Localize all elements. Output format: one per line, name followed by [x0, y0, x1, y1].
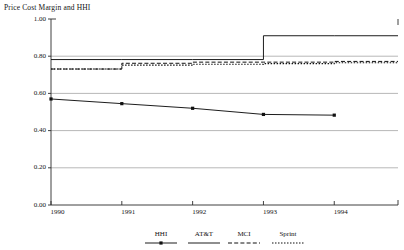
data-point-marker [262, 113, 265, 116]
legend-swatch-marker [159, 241, 162, 244]
legend-item-hhi[interactable]: HHI [145, 230, 177, 245]
x-axis-tick-marks [51, 201, 334, 205]
x-axis-tick-label: 1993 [263, 208, 278, 216]
y-axis-tick-label: 0.20 [34, 163, 47, 171]
y-axis-tick-label: 0.00 [34, 201, 47, 209]
y-axis-tick-label: 0.40 [34, 126, 47, 134]
legend-item-at-t[interactable]: AT&T [188, 230, 220, 243]
y-axis-tick-label: 0.60 [34, 89, 47, 97]
x-axis-tick-label: 1991 [121, 208, 136, 216]
series-hhi [49, 97, 335, 116]
x-axis-tick-label: 1994 [334, 208, 349, 216]
data-point-marker [333, 114, 336, 117]
axis-spines [51, 19, 398, 205]
data-series-group [49, 36, 398, 117]
gridlines [51, 56, 398, 168]
series-sprint [51, 63, 398, 69]
series-line [51, 63, 398, 69]
data-point-marker [191, 107, 194, 110]
legend-item-mci[interactable]: MCI [228, 230, 260, 243]
y-axis-tick-label: 1.00 [34, 15, 47, 23]
x-axis-tick-label: 1992 [192, 208, 207, 216]
x-axis-tick-labels: 19901991199219931994 [51, 208, 349, 216]
data-point-marker [120, 102, 123, 105]
legend-label: HHI [155, 230, 168, 238]
legend-label: Sprint [279, 230, 296, 238]
legend-item-sprint[interactable]: Sprint [272, 230, 304, 243]
legend-label: AT&T [195, 230, 214, 238]
chart-plot-area: 0.000.200.400.600.801.00 199019911992199… [0, 0, 404, 250]
data-point-marker [49, 97, 52, 100]
chart-container: Price Cost Margin and HHI 0.000.200.400.… [0, 0, 404, 250]
x-axis-tick-label: 1990 [51, 208, 66, 216]
plot-frame-axis [51, 19, 398, 205]
y-axis-tick-labels: 0.000.200.400.600.801.00 [34, 15, 51, 209]
legend-label: MCI [237, 230, 251, 238]
y-axis-tick-label: 0.80 [34, 52, 47, 60]
chart-legend: HHIAT&TMCISprint [145, 230, 304, 245]
